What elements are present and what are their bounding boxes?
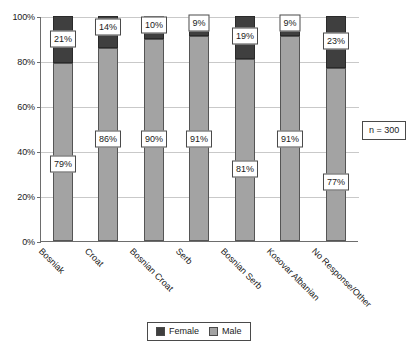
x-axis-label-no-response-other: No Response/Other bbox=[310, 246, 373, 309]
y-tick-label: 20% bbox=[17, 192, 35, 202]
x-axis-label-bosnian-croat: Bosnian Croat bbox=[128, 246, 175, 293]
value-label-male: 79% bbox=[50, 156, 76, 173]
y-tick-mark bbox=[37, 152, 41, 153]
y-tick-mark bbox=[37, 62, 41, 63]
chart-legend: Female Male bbox=[147, 322, 251, 341]
legend-swatch-female-icon bbox=[156, 327, 165, 336]
y-tick-label: 80% bbox=[17, 57, 35, 67]
y-tick-mark bbox=[37, 17, 41, 18]
legend-item-female: Female bbox=[156, 326, 199, 337]
x-axis-label-croat: Croat bbox=[83, 246, 106, 269]
x-axis-label-bosnian-serb: Bosnian Serb bbox=[219, 246, 264, 291]
y-tick-label: 40% bbox=[17, 147, 35, 157]
x-axis-label-bosniak: Bosniak bbox=[37, 246, 67, 276]
value-label-female: 19% bbox=[232, 28, 258, 45]
bar-segment-male bbox=[235, 59, 255, 241]
stacked-bar-chart: 0% 20% 40% 60% 80% 100% bbox=[0, 0, 414, 350]
legend-swatch-male-icon bbox=[209, 327, 218, 336]
value-label-male: 77% bbox=[323, 174, 349, 191]
value-label-male: 91% bbox=[277, 131, 303, 148]
value-label-male: 86% bbox=[95, 131, 121, 148]
value-label-male: 91% bbox=[186, 131, 212, 148]
y-tick-mark bbox=[37, 107, 41, 108]
x-axis-label-serb: Serb bbox=[174, 246, 195, 267]
value-label-female: 9% bbox=[188, 15, 209, 32]
legend-item-male: Male bbox=[209, 326, 242, 337]
y-tick-mark bbox=[37, 242, 41, 243]
value-label-female: 10% bbox=[141, 17, 167, 34]
y-tick-mark bbox=[37, 197, 41, 198]
legend-label-male: Male bbox=[222, 326, 242, 337]
bar-segment-male bbox=[53, 63, 73, 241]
legend-label-female: Female bbox=[169, 326, 199, 337]
value-label-female: 23% bbox=[323, 33, 349, 50]
y-tick-label: 100% bbox=[12, 12, 35, 22]
sample-size-annotation: n = 300 bbox=[362, 121, 406, 140]
value-label-male: 90% bbox=[141, 131, 167, 148]
plot-area: 0% 20% 40% 60% 80% 100% bbox=[40, 17, 358, 242]
value-label-female: 21% bbox=[50, 31, 76, 48]
y-tick-label: 60% bbox=[17, 102, 35, 112]
value-label-female: 9% bbox=[279, 15, 300, 32]
bar-segment-male bbox=[326, 68, 346, 241]
y-tick-label: 0% bbox=[22, 237, 35, 247]
value-label-male: 81% bbox=[232, 161, 258, 178]
value-label-female: 14% bbox=[95, 19, 121, 36]
